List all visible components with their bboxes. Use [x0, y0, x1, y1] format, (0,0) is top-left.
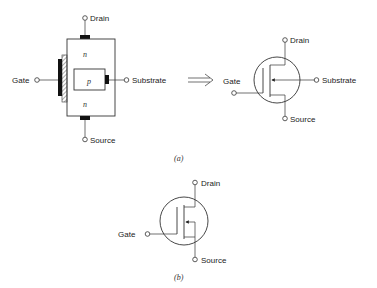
source-terminal	[283, 116, 288, 121]
mosfet-diagram: Drain n p n Gate Substrate	[0, 0, 377, 288]
drain-label: Drain	[290, 36, 309, 45]
n-region-top-label: n	[83, 50, 87, 59]
p-region-label: p	[86, 77, 91, 86]
substrate-label: Substrate	[132, 76, 167, 85]
source-label: Source	[290, 115, 316, 124]
gate-oxide	[62, 55, 67, 102]
gate-terminal	[145, 232, 150, 237]
drain-contact	[80, 35, 90, 39]
gate-terminal: Gate	[12, 76, 58, 85]
drain-label: Drain	[90, 14, 109, 23]
gate-label: Gate	[223, 77, 241, 86]
substrate-contact	[105, 75, 109, 84]
drain-terminal	[283, 38, 288, 43]
cross-section: Drain n p n Gate Substrate	[12, 14, 167, 145]
gate-metal	[58, 59, 62, 96]
mosfet-symbol-a: Gate Drain Source Substrate	[223, 36, 357, 124]
mosfet-symbol-b: Gate Drain Source	[118, 179, 227, 265]
source-terminal	[193, 257, 198, 262]
implies-arrow-icon	[188, 74, 213, 86]
source-label: Source	[201, 256, 227, 265]
drain-terminal	[193, 180, 198, 185]
source-terminal: Source	[80, 116, 116, 145]
source-label: Source	[90, 136, 116, 145]
caption-a: (a)	[174, 154, 184, 163]
caption-b: (b)	[174, 273, 184, 282]
gate-terminal	[232, 91, 237, 96]
drain-terminal: Drain	[80, 14, 109, 39]
gate-label: Gate	[118, 230, 136, 239]
gate-label: Gate	[12, 76, 30, 85]
substrate-terminal: Substrate	[105, 75, 167, 85]
substrate-terminal	[314, 78, 319, 83]
n-region-bottom-label: n	[83, 100, 87, 109]
source-contact	[80, 116, 90, 120]
drain-label: Drain	[201, 179, 220, 188]
substrate-label: Substrate	[322, 76, 357, 85]
